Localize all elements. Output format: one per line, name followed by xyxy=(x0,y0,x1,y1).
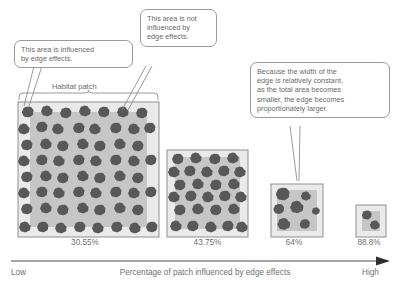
callout-edge-width: Because the width of the edge is relativ… xyxy=(250,62,390,118)
patch-2 xyxy=(167,150,248,237)
patch-3-percent-label: 64% xyxy=(270,238,318,247)
axis-high-label: High xyxy=(362,268,379,277)
callout-not-influenced: This area is not influenced by edge effe… xyxy=(140,9,217,47)
patch-1 xyxy=(18,102,159,237)
patch-3 xyxy=(271,184,323,237)
axis-caption: Percentage of patch influenced by edge e… xyxy=(60,268,350,277)
patch-4 xyxy=(356,205,386,237)
habitat-patch-bracket xyxy=(19,90,158,100)
edge-effects-figure: This area is influenced by edge effects.… xyxy=(0,0,403,286)
axis-arrow xyxy=(11,257,390,266)
patch-2-percent-label: 43.75% xyxy=(165,238,250,247)
patch-1-percent-label: 30.55% xyxy=(30,238,140,247)
patch-4-percent-label: 88.8% xyxy=(345,238,393,247)
callout-edge-influenced: This area is influenced by edge effects. xyxy=(14,40,133,68)
habitat-patch-label: Habitat patch xyxy=(52,82,97,91)
axis-low-label: Low xyxy=(11,268,26,277)
